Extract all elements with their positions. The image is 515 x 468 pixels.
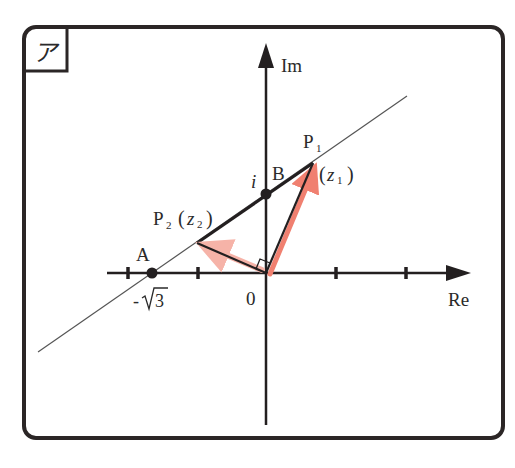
real-axis-label: Re	[448, 289, 469, 310]
svg-text:2: 2	[197, 218, 203, 230]
real-axis-arrow-icon	[446, 265, 471, 281]
point-B-value-label: i	[251, 171, 256, 192]
svg-text:1: 1	[316, 142, 322, 154]
svg-text:1: 1	[337, 174, 343, 186]
point-A-value-label: - 3	[133, 288, 168, 311]
panel-label: ア	[33, 40, 60, 66]
point-A	[147, 268, 158, 279]
imag-axis-arrow-icon	[258, 43, 274, 68]
svg-text:): )	[206, 207, 213, 230]
point-B	[261, 189, 272, 200]
svg-text:3: 3	[155, 291, 164, 311]
point-P2-complex-label: ( z 2 )	[178, 207, 213, 230]
svg-text:(: (	[319, 163, 326, 186]
svg-text:(: (	[178, 207, 185, 230]
svg-text:): )	[347, 163, 354, 186]
point-A-label: A	[136, 244, 150, 265]
panel-frame	[24, 27, 503, 438]
imag-axis-label: Im	[281, 55, 302, 76]
highlight-arrow-OP1	[270, 176, 311, 274]
complex-plane-diagram: ア Im Re 0 A - 3 B i P 1 ( z	[0, 0, 515, 468]
svg-text:P: P	[303, 131, 314, 152]
origin-label: 0	[246, 288, 256, 309]
svg-text:z: z	[186, 208, 195, 229]
point-P1-label: P 1	[303, 131, 322, 154]
svg-text:z: z	[326, 164, 335, 185]
svg-text:2: 2	[166, 219, 172, 231]
svg-text:P: P	[153, 208, 164, 229]
point-P2-label: P 2	[153, 208, 172, 231]
svg-text:-: -	[133, 291, 139, 311]
point-B-label: B	[272, 163, 285, 184]
point-P1-complex-label: ( z 1 )	[319, 163, 354, 186]
